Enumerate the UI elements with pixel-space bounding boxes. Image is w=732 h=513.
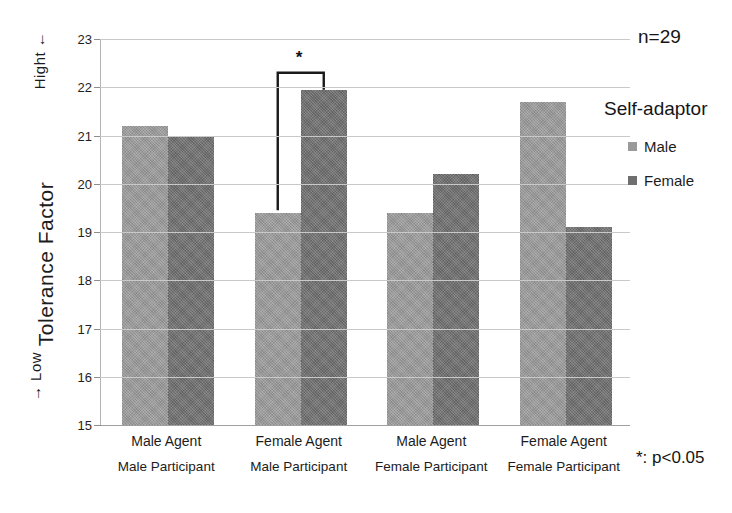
y-axis-tick-mark bbox=[94, 425, 101, 426]
category-participant-label: Male Participant bbox=[233, 460, 366, 474]
gridline bbox=[100, 39, 630, 40]
category-agent-label: Male Agent bbox=[365, 434, 498, 449]
bar-male-group-3 bbox=[387, 213, 433, 425]
category-participant-label: Female Participant bbox=[498, 460, 631, 474]
gridline bbox=[100, 136, 630, 137]
category-agent-label: Female Agent bbox=[498, 434, 631, 449]
legend-title: Self-adaptor bbox=[604, 98, 730, 120]
bar-female-group-3 bbox=[433, 174, 479, 425]
category-label-group-4: Female AgentFemale Participant bbox=[498, 434, 631, 474]
y-axis-low-label: → Low bbox=[27, 332, 44, 422]
y-axis-tick-label: 18 bbox=[66, 273, 92, 288]
y-axis-tick-label: 20 bbox=[66, 176, 92, 191]
legend-label: Male bbox=[644, 138, 677, 155]
y-axis-tick-label: 21 bbox=[66, 128, 92, 143]
gridline bbox=[100, 184, 630, 185]
category-agent-label: Male Agent bbox=[100, 434, 233, 449]
sample-size-annotation: n=29 bbox=[638, 26, 681, 48]
bar-female-group-4 bbox=[566, 227, 612, 425]
category-agent-label: Female Agent bbox=[233, 434, 366, 449]
y-axis-tick-label: 22 bbox=[66, 80, 92, 95]
y-axis-tick-label: 23 bbox=[66, 32, 92, 47]
plot-area: * bbox=[100, 39, 630, 425]
category-participant-label: Male Participant bbox=[100, 460, 233, 474]
legend-label: Female bbox=[644, 172, 694, 189]
y-axis-tick-label: 19 bbox=[66, 225, 92, 240]
x-axis-baseline bbox=[100, 425, 630, 426]
category-label-group-2: Female AgentMale Participant bbox=[233, 434, 366, 474]
p-value-note: *: p<0.05 bbox=[636, 448, 705, 468]
gridline bbox=[100, 232, 630, 233]
bar-male-group-1 bbox=[122, 126, 168, 425]
gridline bbox=[100, 329, 630, 330]
legend-items: MaleFemale bbox=[600, 138, 730, 189]
y-axis-tick-label: 16 bbox=[66, 369, 92, 384]
legend-swatch-icon bbox=[628, 142, 637, 151]
y-axis-tick-label: 15 bbox=[66, 418, 92, 433]
bar-female-group-2 bbox=[301, 90, 347, 425]
legend: Self-adaptor MaleFemale bbox=[600, 98, 730, 206]
legend-item-male: Male bbox=[628, 138, 730, 155]
significance-asterisk: * bbox=[296, 49, 303, 66]
legend-swatch-icon bbox=[628, 176, 637, 185]
legend-item-female: Female bbox=[628, 172, 730, 189]
y-axis-high-label: Hight ← bbox=[31, 16, 48, 106]
bar-male-group-2 bbox=[255, 213, 301, 425]
category-label-group-1: Male AgentMale Participant bbox=[100, 434, 233, 474]
y-axis-tick-label: 17 bbox=[66, 321, 92, 336]
gridline bbox=[100, 280, 630, 281]
gridline bbox=[100, 87, 630, 88]
bar-chart: Hight ← Tolerance Factor → Low 232221201… bbox=[0, 0, 732, 513]
gridline bbox=[100, 377, 630, 378]
category-participant-label: Female Participant bbox=[365, 460, 498, 474]
category-label-group-3: Male AgentFemale Participant bbox=[365, 434, 498, 474]
